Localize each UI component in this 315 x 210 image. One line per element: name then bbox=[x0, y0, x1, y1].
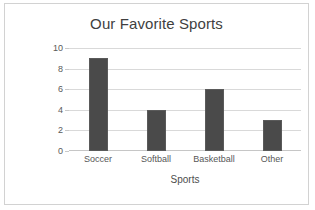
y-axis-tick bbox=[65, 130, 69, 131]
bar bbox=[147, 110, 166, 151]
y-axis-tick bbox=[65, 151, 69, 152]
bar bbox=[89, 58, 108, 151]
x-axis-tick-label: Softball bbox=[141, 154, 171, 164]
y-axis-tick-label: 4 bbox=[58, 105, 63, 115]
x-axis-tick-label: Basketball bbox=[193, 154, 235, 164]
y-axis-tick bbox=[65, 110, 69, 111]
bar bbox=[205, 89, 224, 151]
y-axis-tick bbox=[65, 48, 69, 49]
chart-title: Our Favorite Sports bbox=[5, 15, 308, 32]
x-axis-title: Sports bbox=[69, 174, 301, 185]
plot-area: 0246810SoccerSoftballBasketballOther bbox=[69, 48, 301, 151]
y-axis-tick bbox=[65, 69, 69, 70]
bar bbox=[263, 120, 282, 151]
y-axis-tick-label: 0 bbox=[58, 146, 63, 156]
y-axis-tick-label: 10 bbox=[53, 43, 63, 53]
y-axis-tick-label: 2 bbox=[58, 125, 63, 135]
y-axis-tick-label: 8 bbox=[58, 64, 63, 74]
gridline bbox=[69, 48, 301, 49]
x-axis-tick-label: Soccer bbox=[84, 154, 112, 164]
y-axis-tick-label: 6 bbox=[58, 84, 63, 94]
y-axis-tick bbox=[65, 89, 69, 90]
chart-frame: Our Favorite Sports 0246810SoccerSoftbal… bbox=[4, 3, 309, 205]
x-axis-tick-label: Other bbox=[261, 154, 284, 164]
